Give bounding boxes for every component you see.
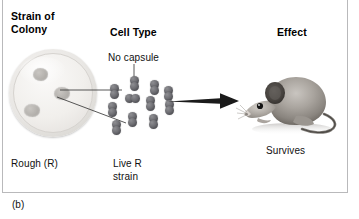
injection-arrow xyxy=(168,92,240,110)
rough-colony xyxy=(33,68,48,81)
panel-label: (b) xyxy=(12,199,24,210)
mouse-eye xyxy=(257,103,263,109)
caption-live-r-strain: Live R strain xyxy=(113,158,142,183)
caption-live-r-line2: strain xyxy=(113,171,142,184)
diplococcus-cell xyxy=(146,96,155,111)
rough-colony xyxy=(24,104,40,117)
rough-colony xyxy=(54,87,70,100)
petri-dish xyxy=(9,49,97,137)
column-heading-strain-of-colony: Strain of Colony xyxy=(11,10,55,35)
diplococcus-cell xyxy=(149,114,158,129)
column-heading-strain-line1: Strain of xyxy=(11,10,55,23)
diplococcus-cell xyxy=(150,80,159,95)
mouse-front-paw xyxy=(257,118,271,123)
column-heading-cell-type: Cell Type xyxy=(110,26,157,39)
mouse-ear-inner xyxy=(269,86,281,100)
mouse-eye-glint xyxy=(258,104,260,106)
diplococcus-cell xyxy=(112,120,121,135)
caption-survives: Survives xyxy=(266,145,305,158)
diplococcus-cell xyxy=(108,102,117,117)
arrow-shape xyxy=(168,93,239,109)
diplococcus-cell xyxy=(128,112,137,127)
caption-no-capsule: No capsule xyxy=(108,52,159,65)
caption-live-r-line1: Live R xyxy=(113,158,142,171)
diplococcus-cell xyxy=(125,94,140,103)
diplococcus-cell xyxy=(130,76,139,91)
diplococcus-cell xyxy=(110,84,119,99)
laboratory-mouse xyxy=(236,58,344,144)
caption-rough-strain: Rough (R) xyxy=(11,158,58,171)
experiment-figure-panel-b: Strain of Colony Cell Type Effect xyxy=(0,0,359,219)
column-heading-effect: Effect xyxy=(277,26,307,39)
column-heading-strain-line2: Colony xyxy=(11,23,55,36)
